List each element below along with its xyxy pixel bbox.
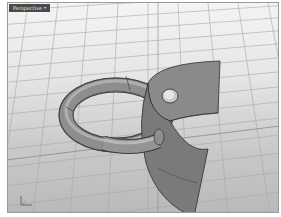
viewport-title-label: Perspective: [13, 4, 42, 12]
axes-widget: [18, 193, 36, 212]
viewport-canvas[interactable]: [8, 3, 279, 213]
viewport-title-tab[interactable]: Perspective ▾: [9, 4, 50, 12]
viewport-perspective[interactable]: Perspective ▾: [7, 2, 279, 213]
chevron-down-icon[interactable]: ▾: [44, 4, 46, 12]
y-axis-icon: [21, 201, 26, 205]
window-margin: [0, 0, 7, 217]
